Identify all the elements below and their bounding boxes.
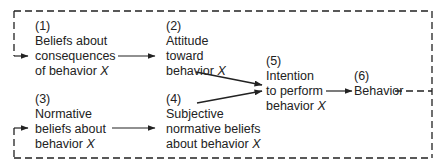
node-subjective-norm: (4) Subjective normative beliefs about b… (166, 92, 261, 152)
node-attitude: (2) Attitude toward behavior X (166, 19, 226, 79)
node-behavior: (6) Behavior (354, 69, 403, 99)
node-normative-beliefs: (3) Normative beliefs about behavior X (35, 92, 106, 152)
node-beliefs-consequences: (1) Beliefs about consequences of behavi… (35, 19, 116, 79)
node-intention: (5) Intention to perform behavior X (266, 54, 326, 114)
